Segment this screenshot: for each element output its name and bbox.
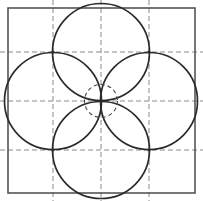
node-lower-left <box>51 148 54 151</box>
node-upper-right <box>147 50 150 53</box>
node-lower-right <box>147 148 150 151</box>
geometric-figure <box>0 0 203 201</box>
node-center <box>100 100 103 103</box>
node-upper-left <box>51 50 54 53</box>
figure-canvas <box>0 0 203 201</box>
